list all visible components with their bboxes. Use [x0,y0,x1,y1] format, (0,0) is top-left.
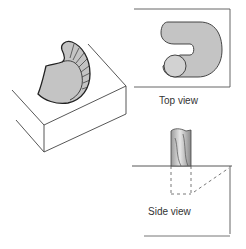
top-view-tool-circle [164,55,186,77]
pocket-floor [38,41,90,103]
block-bottom-front-edge [44,114,126,152]
side-view [132,129,232,236]
top-view-label: Top view [159,95,198,106]
top-view [134,9,230,87]
end-mill-tool [171,129,191,166]
block-top-right-edge [88,44,126,86]
figure-canvas [0,0,246,249]
isometric-pocket [38,41,90,103]
hidden-cut-lines [171,166,229,194]
side-view-label: Side view [148,206,191,217]
block-bottom-left-edge [16,120,44,152]
